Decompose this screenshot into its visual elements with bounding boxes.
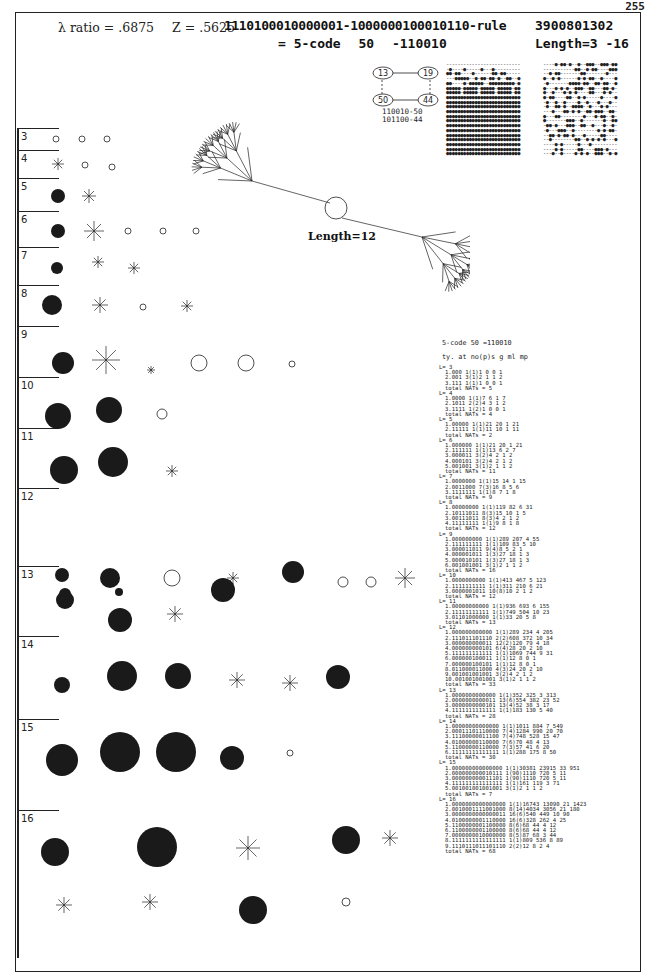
table-block-3: L= 31.000 1(1)1 0 0 12.001 3(1)2 1 1 23.…	[442, 365, 586, 391]
table-body: L= 31.000 1(1)1 0 0 12.001 3(1)2 1 1 23.…	[442, 365, 586, 854]
table-total: total NATs = 68	[442, 849, 586, 854]
table-block-13: L= 131.0000000000000 1(1)352 325 3 3132.…	[442, 688, 586, 719]
table-block-10: L= 101.0000000000 1(1)413 467 5 1232.111…	[442, 573, 586, 599]
table-title: 5-code 50 =110010	[442, 339, 586, 347]
table-block-6: L= 61.000000 1(1)21 20 1 212.111111 1(1)…	[442, 438, 586, 474]
attractor-table: 5-code 50 =110010 ty. at no(p)s g ml mp …	[442, 339, 586, 854]
table-block-14: L= 141.00000000000000 1(1)1011 884 7 549…	[442, 719, 586, 761]
table-block-8: L= 81.00000000 1(1)119 82 6 312.10111011…	[442, 500, 586, 531]
table-block-7: L= 71.0000000 1(1)15 14 1 152.0011000 7(…	[442, 474, 586, 500]
table-block-11: L= 111.00000000000 1(1)936 693 6 1552.11…	[442, 599, 586, 625]
table-columns: ty. at no(p)s g ml mp	[442, 353, 586, 361]
table-block-5: L= 51.00000 1(1)21 20 1 212.11111 1(1)11…	[442, 417, 586, 438]
table-block-9: L= 91.000000000 1(1)289 207 4 552.111111…	[442, 532, 586, 574]
table-block-16: L= 161.0000000000000000 1(1)16743 13090 …	[442, 797, 586, 854]
table-block-15: L= 151.000000000000000 1(1)30381 23915 3…	[442, 760, 586, 796]
table-block-12: L= 121.000000000000 1(1)289 234 4 2052.1…	[442, 625, 586, 687]
table-block-4: L= 41.0000 1(1)7 6 1 72.1011 2(2)4 3 1 2…	[442, 391, 586, 417]
